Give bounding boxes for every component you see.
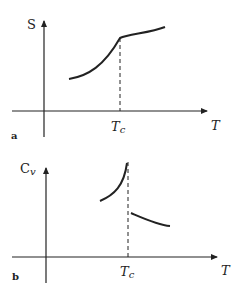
- x-axis-label-t-b: T: [221, 263, 231, 278]
- entropy-curve: [69, 27, 165, 79]
- y-axis-label-s: S: [27, 17, 36, 32]
- phase-transition-diagram: S T Tc a Cv T Tc b: [0, 0, 244, 298]
- panel-a: S T Tc a: [11, 17, 221, 141]
- cv-curve-above-tc: [131, 213, 170, 226]
- cv-curve-below-tc: [100, 163, 127, 201]
- y-axis-label-cv: Cv: [20, 161, 36, 177]
- tc-label-b: Tc: [120, 264, 135, 280]
- tc-label-a: Tc: [111, 119, 126, 135]
- panel-b: Cv T Tc b: [12, 161, 231, 283]
- panel-label-b: b: [12, 271, 19, 282]
- x-axis-label-t-a: T: [211, 118, 221, 133]
- panel-label-a: a: [11, 130, 18, 141]
